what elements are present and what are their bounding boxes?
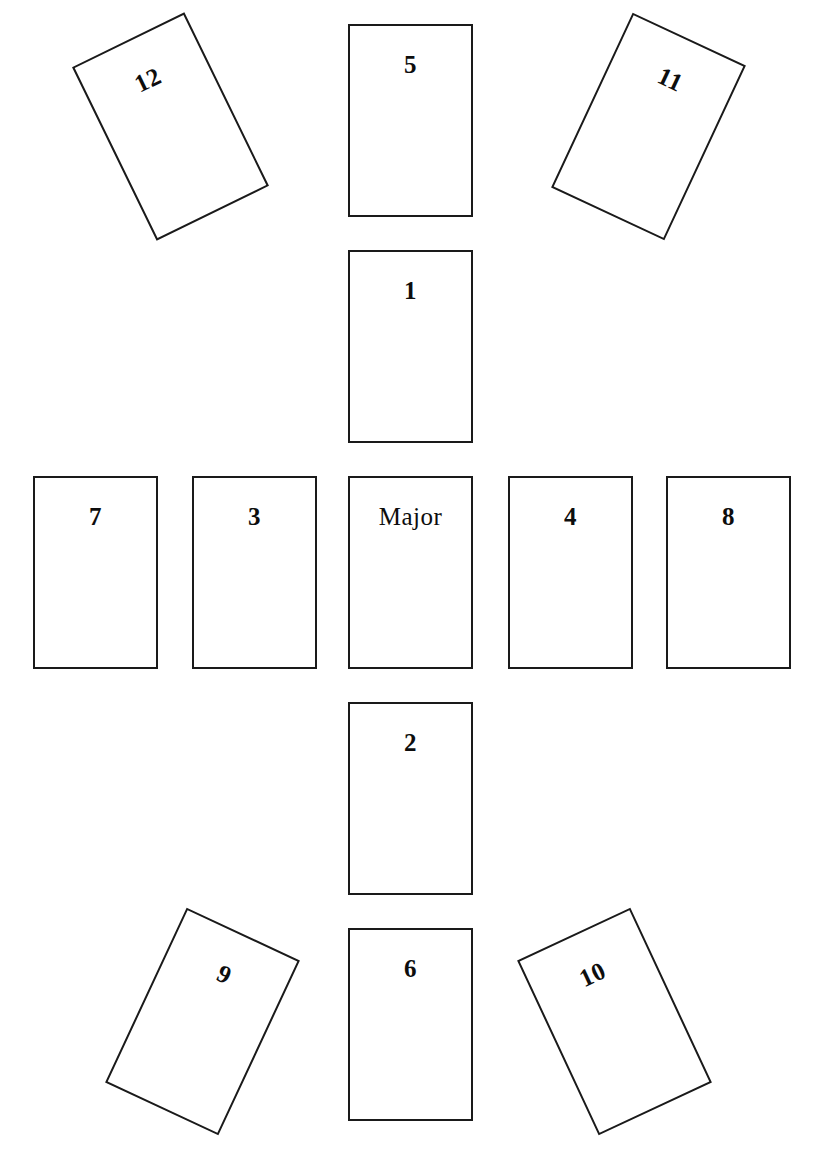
card-11-label: 11 xyxy=(610,42,730,116)
card-11[interactable]: 11 xyxy=(551,13,746,241)
card-6[interactable]: 6 xyxy=(348,928,473,1121)
card-7[interactable]: 7 xyxy=(33,476,158,669)
card-10-label: 10 xyxy=(532,937,652,1011)
card-2[interactable]: 2 xyxy=(348,702,473,895)
card-1[interactable]: 1 xyxy=(348,250,473,443)
card-6-label: 6 xyxy=(350,956,471,981)
card-5-label: 5 xyxy=(350,52,471,77)
card-8-label: 8 xyxy=(668,504,789,529)
card-4-label: 4 xyxy=(510,504,631,529)
card-1-label: 1 xyxy=(350,278,471,303)
card-2-label: 2 xyxy=(350,730,471,755)
card-major-label: Major xyxy=(350,504,471,529)
card-5[interactable]: 5 xyxy=(348,24,473,217)
card-9-label: 9 xyxy=(164,937,284,1011)
card-3[interactable]: 3 xyxy=(192,476,317,669)
card-4[interactable]: 4 xyxy=(508,476,633,669)
card-7-label: 7 xyxy=(35,504,156,529)
card-3-label: 3 xyxy=(194,504,315,529)
card-10[interactable]: 10 xyxy=(517,908,712,1136)
card-12-label: 12 xyxy=(88,42,208,118)
card-spread-diagram: 12511173Major4829610 xyxy=(0,0,822,1154)
card-9[interactable]: 9 xyxy=(105,908,300,1136)
card-major[interactable]: Major xyxy=(348,476,473,669)
card-12[interactable]: 12 xyxy=(72,12,269,240)
card-8[interactable]: 8 xyxy=(666,476,791,669)
